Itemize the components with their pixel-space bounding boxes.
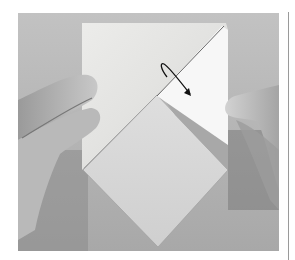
origami-photo [18,13,279,251]
vertical-rule [288,12,289,260]
